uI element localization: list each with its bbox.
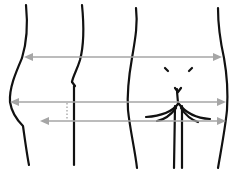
side-view-back-outline [10, 5, 29, 165]
back-view-left-outline [128, 8, 137, 168]
waist-measurement-arrow [24, 53, 222, 61]
inner-thigh-left [174, 106, 175, 168]
back-dimple-right [189, 68, 192, 71]
side-view-front-outline [72, 5, 83, 82]
back-view-right-outline [218, 8, 227, 168]
low-hip-measurement-arrow [40, 117, 226, 125]
hip-measurement-arrow [10, 98, 226, 106]
measurement-diagram [0, 0, 231, 181]
back-dimple-left [165, 68, 168, 71]
diagram-svg [0, 0, 231, 181]
